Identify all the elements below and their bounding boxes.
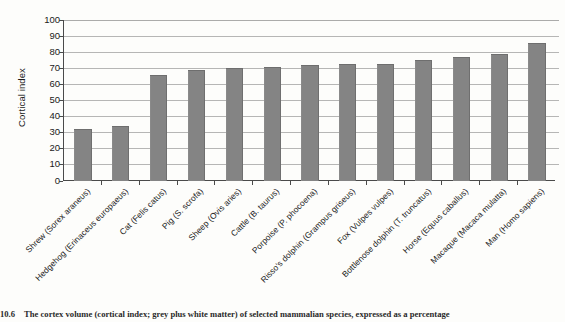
x-tick-mark (479, 181, 480, 185)
y-tick-label: 100 (30, 15, 60, 25)
bar (415, 60, 432, 180)
y-tick-label: 80 (30, 47, 60, 57)
x-tick-mark (177, 181, 178, 185)
bar (301, 65, 318, 180)
y-tick-label: 30 (30, 127, 60, 137)
bar (491, 54, 508, 181)
bar (188, 70, 205, 180)
bar (150, 75, 167, 181)
bar (339, 64, 356, 180)
x-tick-mark (328, 181, 329, 185)
x-tick-mark (441, 181, 442, 185)
caption-text: The cortex volume (cortical index; grey … (24, 309, 450, 319)
x-tick-mark (214, 181, 215, 185)
x-tick-mark (404, 181, 405, 185)
y-axis-tick-labels: 1009080706050403020100 (30, 14, 60, 186)
bar (528, 43, 545, 181)
x-tick-mark (101, 181, 102, 185)
bar-series (64, 20, 556, 181)
bar (377, 64, 394, 181)
y-tick-label: 60 (30, 79, 60, 89)
x-axis-category-labels: Shrew (Sorex araneus)Hedgehog (Erinaceus… (0, 186, 565, 306)
x-axis-tick-marks (63, 181, 558, 186)
bar (264, 67, 281, 181)
y-tick-label: 20 (30, 144, 60, 154)
bar (453, 57, 470, 180)
caption-number: 10.6 (0, 309, 15, 319)
y-tick-label: 50 (30, 95, 60, 105)
figure-caption: 10.6The cortex volume (cortical index; g… (0, 309, 565, 319)
y-tick-label: 40 (30, 111, 60, 121)
y-axis-title: Cortical index (16, 48, 27, 148)
y-tick-label: 0 (30, 176, 60, 186)
y-tick-label: 70 (30, 63, 60, 73)
plot-area (63, 20, 555, 181)
x-tick-mark (290, 181, 291, 185)
bar (112, 126, 129, 180)
x-tick-mark (517, 181, 518, 185)
x-tick-mark (252, 181, 253, 185)
bar (74, 129, 91, 181)
figure-container: Cortical index 1009080706050403020100 Sh… (0, 0, 565, 322)
y-tick-label: 90 (30, 31, 60, 41)
x-tick-mark (366, 181, 367, 185)
y-tick-label: 10 (30, 160, 60, 170)
x-tick-mark (139, 181, 140, 185)
bar (226, 68, 243, 180)
